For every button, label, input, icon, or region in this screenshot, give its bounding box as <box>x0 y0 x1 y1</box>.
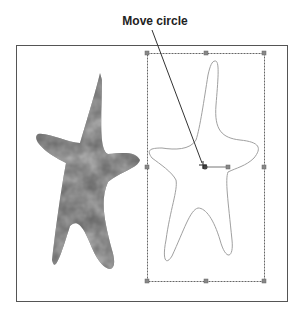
handle-top-left[interactable] <box>145 51 149 55</box>
canvas <box>0 0 298 315</box>
handle-middle-left[interactable] <box>145 165 149 169</box>
handle-bottom-left[interactable] <box>145 279 149 283</box>
textured-starfish[interactable] <box>30 70 145 280</box>
rotation-handle[interactable] <box>226 165 230 169</box>
callout-leader-line <box>152 30 202 163</box>
handle-bottom-middle[interactable] <box>204 279 208 283</box>
artboard-frame <box>17 46 288 302</box>
outline-starfish[interactable] <box>149 61 258 261</box>
handle-bottom-right[interactable] <box>262 279 266 283</box>
handle-top-right[interactable] <box>262 51 266 55</box>
handle-middle-right[interactable] <box>262 165 266 169</box>
handle-top-middle[interactable] <box>204 51 208 55</box>
